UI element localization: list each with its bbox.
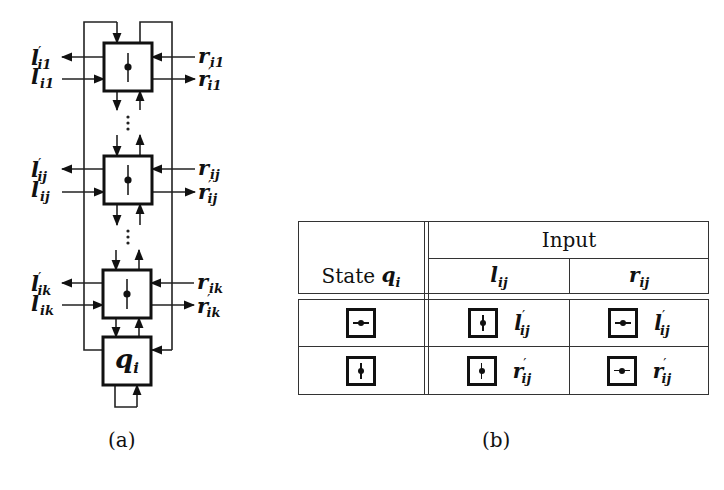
row-2-state — [298, 347, 424, 394]
row-1-input-r: l′ij — [570, 300, 708, 346]
header-input-r: rij — [570, 259, 708, 293]
row-1-state — [298, 300, 424, 346]
vertical-state-icon — [468, 308, 498, 338]
label-r-prime-i1: r′i1 — [198, 66, 221, 92]
label-r-prime-ij: r′ij — [198, 179, 217, 205]
header-input-l: lij — [429, 259, 569, 293]
header-input-group: Input — [429, 221, 709, 258]
cell-box-k — [103, 270, 151, 318]
state-q-label: qi — [115, 344, 139, 377]
state-transition-table: State qi Input lij rij l′ij l′ij r′ij — [298, 221, 709, 395]
caption-a: (a) — [108, 428, 136, 452]
row-2-input-r: r′ij — [570, 347, 708, 394]
cell-box-1 — [104, 43, 152, 91]
horizontal-state-icon — [346, 308, 376, 338]
horizontal-state-icon — [607, 356, 637, 386]
row-1-input-l: l′ij — [429, 300, 569, 346]
caption-b: (b) — [482, 428, 510, 452]
header-state: State qi — [298, 258, 424, 294]
label-r-ik: rik — [197, 271, 223, 295]
state-self-loop — [115, 385, 137, 407]
cell-box-j — [104, 156, 152, 204]
row-2-input-l: r′ij — [429, 347, 569, 394]
label-r-prime-ik: r′ik — [197, 293, 220, 319]
label-l-i1: li1 — [31, 66, 54, 90]
vertical-state-icon — [467, 356, 497, 386]
vertical-state-icon — [346, 356, 376, 386]
horizontal-state-icon — [608, 308, 638, 338]
label-l-ij: lij — [31, 179, 50, 203]
label-l-ik: lik — [31, 293, 54, 317]
